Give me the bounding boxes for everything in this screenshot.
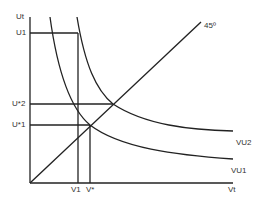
v1-label: V1 bbox=[71, 186, 81, 194]
vu2-curve bbox=[77, 17, 233, 131]
vu1-label: VU1 bbox=[231, 167, 247, 175]
u1-label: U1 bbox=[16, 29, 26, 37]
diagram-canvas bbox=[0, 0, 261, 205]
angle-label: 45º bbox=[204, 22, 216, 30]
y-axis-label: Ut bbox=[16, 13, 24, 21]
forty-five-degree-line bbox=[30, 22, 201, 183]
vu2-label: VU2 bbox=[236, 139, 252, 147]
u-star-2-label: U*2 bbox=[12, 100, 25, 108]
u-star-1-label: U*1 bbox=[12, 121, 25, 129]
x-axis-label: Vt bbox=[228, 186, 236, 194]
v-star-label: V* bbox=[86, 186, 94, 194]
